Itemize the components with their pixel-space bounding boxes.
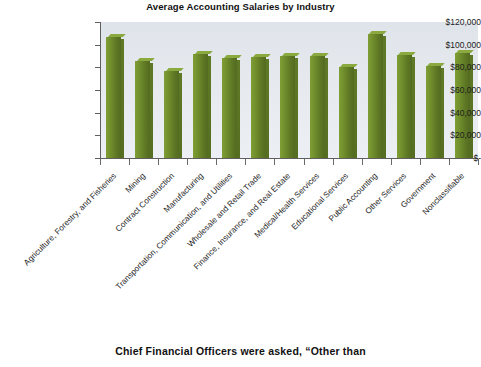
- x-tick-mark: [129, 159, 130, 165]
- x-tick-mark: [245, 159, 246, 165]
- bar-side-face: [266, 59, 269, 158]
- bar-top-face: [108, 34, 126, 37]
- bar-side-face: [150, 63, 153, 158]
- x-tick-mark: [187, 159, 188, 165]
- bar-slot: [245, 22, 274, 158]
- figure-caption: Chief Financial Officers were asked, “Ot…: [0, 345, 481, 357]
- x-tick-label: Other Services: [190, 171, 408, 367]
- x-tick-label: Nonclassifiable: [248, 171, 466, 367]
- y-tick-mark: [95, 113, 100, 114]
- y-tick-mark: [95, 22, 100, 23]
- x-tick-label: Medical/Health Services: [103, 171, 321, 367]
- y-tick-label: $100,000: [389, 40, 481, 50]
- bar-slot: [158, 22, 187, 158]
- bar-side-face: [179, 73, 182, 158]
- x-tick-label: Government: [219, 171, 437, 367]
- bar-top-face: [137, 58, 155, 61]
- x-tick-label: Transportation, Communication, and Utili…: [16, 171, 234, 367]
- salary-bar-chart-figure: Average Accounting Salaries by Industry …: [0, 0, 481, 367]
- y-tick-label: $60,000: [389, 85, 481, 95]
- x-tick-mark: [478, 159, 479, 165]
- bar-slot: [129, 22, 158, 158]
- x-tick-mark: [420, 159, 421, 165]
- bar-top-face: [456, 50, 474, 53]
- bar: [193, 54, 208, 158]
- x-tick-mark: [274, 159, 275, 165]
- bar-side-face: [295, 58, 298, 158]
- bar: [106, 37, 121, 158]
- x-tick-label: Contract Construction: [0, 171, 176, 367]
- bar: [251, 57, 266, 158]
- bar: [164, 71, 179, 158]
- bar-slot: [362, 22, 391, 158]
- bar-top-face: [166, 68, 184, 71]
- bar-top-face: [224, 55, 242, 58]
- bar: [280, 56, 295, 158]
- x-tick-mark: [449, 159, 450, 165]
- y-tick-mark: [95, 45, 100, 46]
- x-tick-label: Mining: [0, 171, 147, 367]
- x-tick-mark: [333, 159, 334, 165]
- x-tick-mark: [158, 159, 159, 165]
- x-tick-label: Educational Services: [132, 171, 350, 367]
- bar-side-face: [208, 56, 211, 158]
- x-tick-mark: [391, 159, 392, 165]
- y-tick-mark: [95, 90, 100, 91]
- y-tick-mark: [95, 67, 100, 68]
- bar-side-face: [325, 58, 328, 158]
- bar-top-face: [253, 54, 271, 57]
- bar-slot: [333, 22, 362, 158]
- y-tick-label: $20,000: [389, 130, 481, 140]
- bar-side-face: [237, 60, 240, 158]
- x-tick-mark: [100, 159, 101, 165]
- bar-slot: [187, 22, 216, 158]
- chart-title: Average Accounting Salaries by Industry: [0, 1, 481, 12]
- bar-side-face: [354, 69, 357, 158]
- x-tick-mark: [304, 159, 305, 165]
- x-tick-mark: [362, 159, 363, 165]
- bar-top-face: [340, 64, 358, 67]
- y-axis-line: [100, 22, 101, 159]
- x-tick-label: Agriculture, Forestry, and Fisheries: [0, 171, 118, 367]
- bar-side-face: [383, 36, 386, 158]
- x-tick-label: Finance, Insurance, and Real Estate: [74, 171, 292, 367]
- y-tick-label: $40,000: [389, 108, 481, 118]
- y-tick-label: $120,000: [389, 17, 481, 27]
- bar: [135, 61, 150, 158]
- bar-slot: [216, 22, 245, 158]
- bar-top-face: [195, 51, 213, 54]
- bar-top-face: [311, 53, 329, 56]
- y-tick-mark: [95, 135, 100, 136]
- bar: [339, 67, 354, 158]
- bar: [222, 58, 237, 158]
- x-tick-label: Wholesale and Retail Trade: [45, 171, 263, 367]
- bar-slot: [274, 22, 303, 158]
- bar-top-face: [398, 52, 416, 55]
- bar-slot: [304, 22, 333, 158]
- x-tick-label: Manufacturing: [0, 171, 205, 367]
- x-tick-label: Public Accounting: [161, 171, 379, 367]
- y-tick-label: $80,000: [389, 62, 481, 72]
- y-tick-label: $-: [389, 153, 481, 163]
- bar-slot: [100, 22, 129, 158]
- bar: [368, 34, 383, 158]
- bar-side-face: [121, 39, 124, 158]
- bar: [310, 56, 325, 158]
- x-tick-mark: [216, 159, 217, 165]
- bar-top-face: [282, 53, 300, 56]
